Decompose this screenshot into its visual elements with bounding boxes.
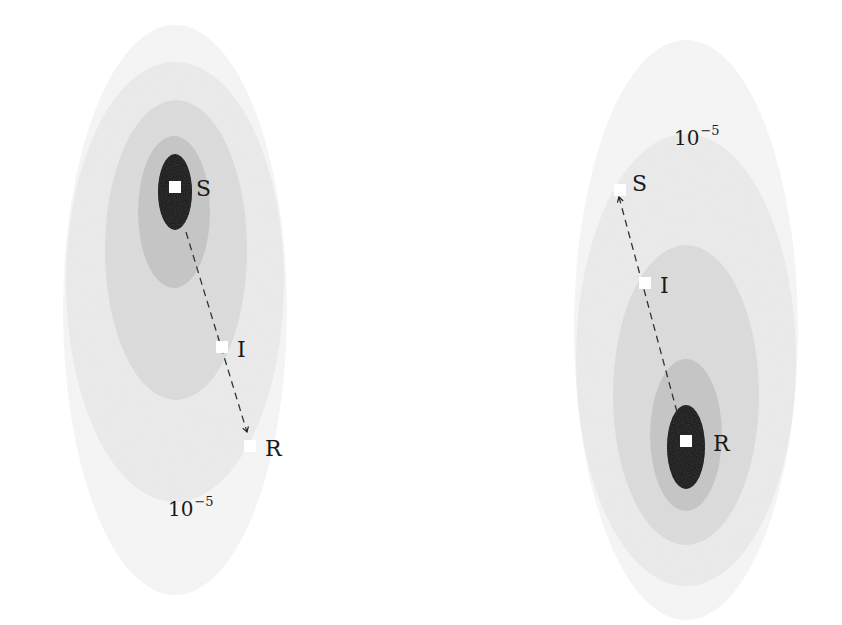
node-s-marker <box>169 181 181 193</box>
node-i-marker <box>216 341 228 353</box>
node-r-marker <box>244 440 256 452</box>
node-s-marker <box>614 184 626 196</box>
node-r-marker <box>680 435 692 447</box>
node-i-label: I <box>660 273 669 298</box>
node-i-label: I <box>237 337 246 362</box>
node-r-label: R <box>265 436 283 461</box>
node-s-label: S <box>632 171 647 196</box>
node-i-marker <box>639 277 651 289</box>
node-s-label: S <box>196 176 211 201</box>
node-r-label: R <box>713 431 731 456</box>
contour-figure: SIR10−5 SIR10−5 <box>0 0 842 625</box>
